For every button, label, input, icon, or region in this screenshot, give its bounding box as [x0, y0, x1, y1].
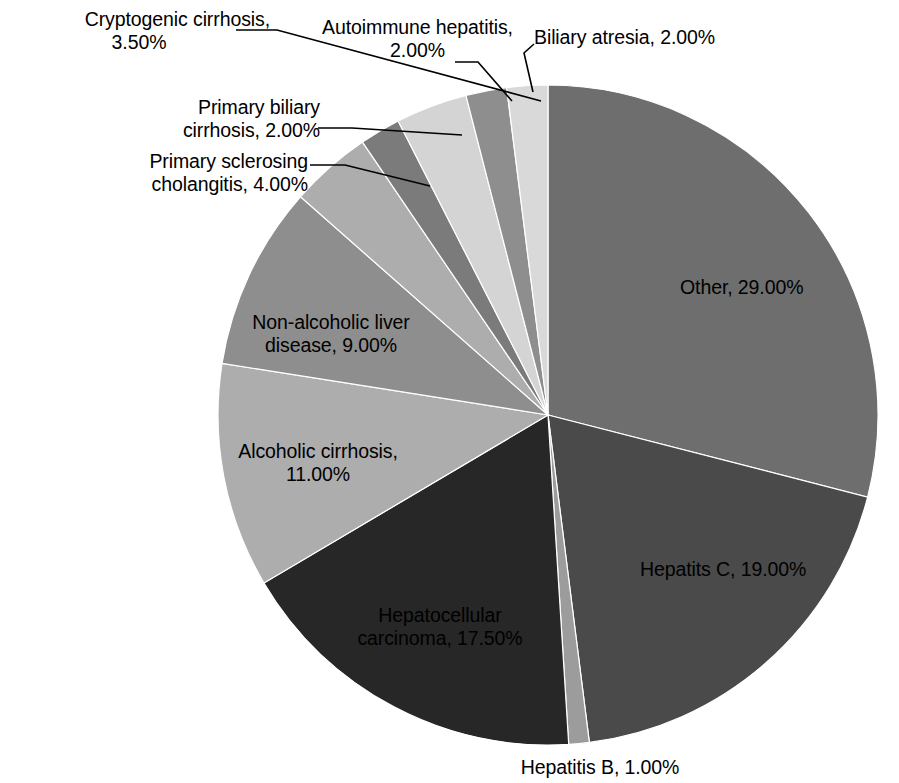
label-line-2: 3.50% — [8, 31, 270, 54]
label-line-2: 2.00% — [390, 39, 445, 61]
pie-chart: Cryptogenic cirrhosis,3.50% Primary bili… — [0, 0, 899, 783]
slice-label-non-alcoholic-liver-disease: Non-alcoholic liverdisease, 9.00% — [220, 311, 442, 357]
slice-label-alcoholic-cirrhosis: Alcoholic cirrhosis,11.00% — [208, 440, 428, 486]
label-line-2: carcinoma, 17.50% — [357, 627, 522, 649]
label-line-1: Non-alcoholic liver — [252, 311, 409, 333]
slice-label-cryptogenic-cirrhosis: Cryptogenic cirrhosis,3.50% — [8, 8, 270, 54]
slice-label-hepatitis-c: Hepatits C, 19.00% — [640, 558, 825, 581]
label-line-2: 11.00% — [286, 463, 350, 485]
label-line-1: Primary biliary — [198, 96, 320, 118]
label-line-2: cholangitis, 4.00% — [152, 173, 308, 195]
label-line-1: Hepatocellular — [378, 604, 501, 626]
slice-label-other: Other, 29.00% — [680, 276, 840, 299]
slice-label-primary-sclerosing-cholangitis: Primary sclerosingcholangitis, 4.00% — [86, 150, 308, 196]
label-line-2: disease, 9.00% — [265, 334, 397, 356]
label-line-1: Alcoholic cirrhosis, — [238, 440, 397, 462]
slice-label-hepatitis-b: Hepatitis B, 1.00% — [485, 756, 715, 779]
slice-label-hepatocellular-carcinoma: Hepatocellularcarcinoma, 17.50% — [330, 604, 550, 650]
slice-label-primary-biliary-cirrhosis: Primary biliarycirrhosis, 2.00% — [120, 96, 320, 142]
label-line-1: Autoimmune hepatitis, — [322, 16, 513, 38]
label-line-1: Cryptogenic cirrhosis, — [85, 8, 270, 30]
label-line-1: Primary sclerosing — [149, 150, 308, 172]
slice-label-autoimmune-hepatitis: Autoimmune hepatitis,2.00% — [300, 16, 535, 62]
label-line-2: cirrhosis, 2.00% — [183, 119, 320, 141]
slice-label-biliary-atresia: Biliary atresia, 2.00% — [534, 26, 784, 49]
